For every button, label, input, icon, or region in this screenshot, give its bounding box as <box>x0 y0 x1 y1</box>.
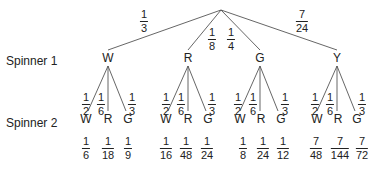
prob-w: 13 <box>140 9 148 34</box>
node-r: R <box>184 52 193 64</box>
outcome-rw: 116 <box>160 136 172 161</box>
g-node-w: W <box>234 113 245 125</box>
outcome-yg: 772 <box>356 136 368 161</box>
r-node-r: R <box>184 113 193 125</box>
g-node-r: R <box>257 113 266 125</box>
w-node-w: W <box>80 113 91 125</box>
outcome-ww: 16 <box>82 136 90 161</box>
prob-g: 14 <box>227 27 235 52</box>
y-node-r: R <box>334 113 343 125</box>
outcome-rg: 124 <box>201 136 213 161</box>
outcome-rr: 148 <box>180 136 192 161</box>
outcome-wr: 118 <box>102 136 114 161</box>
prob-y: 724 <box>296 9 308 34</box>
outcome-gw: 18 <box>239 136 247 161</box>
outcome-yw: 748 <box>310 136 322 161</box>
y-node-w: W <box>311 113 322 125</box>
y-node-g: G <box>352 113 361 125</box>
g-node-g: G <box>276 113 285 125</box>
outcome-wg: 19 <box>124 136 132 161</box>
w-node-r: R <box>104 113 113 125</box>
spinner1-label: Spinner 1 <box>6 55 57 67</box>
node-w: W <box>102 52 113 64</box>
r-node-g: G <box>203 113 212 125</box>
outcome-gg: 112 <box>277 136 289 161</box>
prob-r: 18 <box>208 27 216 52</box>
outcome-yr: 7144 <box>331 136 349 161</box>
outcome-gr: 124 <box>257 136 269 161</box>
node-g: G <box>255 52 264 64</box>
node-y: Y <box>333 52 341 64</box>
spinner2-label: Spinner 2 <box>6 117 57 129</box>
r-node-w: W <box>160 113 171 125</box>
w-node-g: G <box>123 113 132 125</box>
